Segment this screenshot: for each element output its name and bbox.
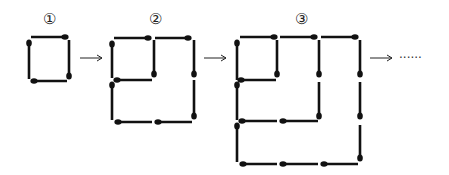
matchstick-head — [357, 112, 363, 119]
figure-label-2: ② — [149, 10, 162, 28]
matchstick-head — [109, 81, 115, 88]
figure-label-1: ① — [43, 10, 56, 28]
matchstick — [316, 40, 322, 78]
matchstick-head — [184, 35, 191, 41]
matchstick-head — [26, 39, 32, 46]
matchstick — [26, 39, 32, 79]
matchstick-head — [191, 112, 197, 119]
matchstick — [30, 78, 67, 84]
matchstick-figure-2 — [109, 35, 197, 125]
matchstick — [109, 81, 115, 120]
matchstick — [321, 34, 359, 40]
matchstick — [234, 122, 240, 162]
matchstick — [109, 40, 115, 78]
matchstick-diagram: ① ② ③ ······ — [0, 0, 449, 175]
matchstick — [357, 40, 363, 78]
matchstick-head — [234, 122, 240, 129]
matchstick-head — [30, 78, 37, 84]
arrow-right-icon — [80, 55, 102, 61]
matchstick-head — [239, 161, 246, 167]
matchstick — [237, 77, 276, 83]
matchstick-head — [144, 35, 151, 41]
matchstick — [279, 161, 318, 167]
matchstick — [114, 35, 152, 41]
matchstick — [154, 119, 192, 125]
matchstick — [274, 40, 280, 78]
matchstick — [66, 40, 72, 80]
matchstick — [151, 40, 157, 78]
matchstick — [279, 118, 318, 124]
matchstick-head — [320, 161, 327, 167]
matchstick-head — [310, 34, 317, 40]
matchstick-head — [113, 77, 120, 83]
matchstick — [320, 161, 358, 167]
matchstick-head — [114, 119, 121, 125]
matchstick — [316, 82, 322, 120]
matchstick-head — [274, 70, 280, 77]
matchstick — [155, 35, 192, 41]
continuation-ellipsis: ······ — [399, 51, 422, 65]
matchstick — [191, 80, 197, 120]
matchstick-head — [238, 118, 245, 124]
arrow-right-icon — [204, 55, 226, 61]
matchstick — [239, 161, 277, 167]
matchstick — [357, 125, 363, 162]
matchstick-head — [279, 161, 286, 167]
matchstick-head — [237, 77, 244, 83]
arrow-right-icon — [370, 55, 392, 61]
matchstick — [234, 81, 240, 120]
matchstick-head — [234, 81, 240, 88]
matchstick-head — [279, 118, 286, 124]
matchstick-head — [234, 39, 240, 46]
matchstick-head — [357, 154, 363, 161]
matchstick — [191, 40, 197, 78]
matchstick-figure-3 — [234, 34, 363, 167]
matchstick — [114, 119, 152, 125]
matchstick — [240, 34, 278, 40]
matchstick-head — [270, 34, 277, 40]
figure-labels: ① ② ③ — [43, 10, 308, 28]
matchstick — [357, 82, 363, 120]
matchstick-head — [351, 34, 358, 40]
matchstick-head — [61, 34, 68, 40]
matchstick-head — [66, 72, 72, 79]
matchstick-head — [316, 112, 322, 119]
matchstick-head — [151, 70, 157, 77]
matchstick — [280, 34, 318, 40]
matchstick — [238, 118, 277, 124]
matchstick-figure-1 — [26, 34, 72, 84]
matchstick — [31, 34, 69, 40]
matchstick — [234, 39, 240, 80]
matchstick-head — [154, 119, 161, 125]
matchstick-head — [109, 40, 115, 47]
figure-label-3: ③ — [295, 10, 308, 28]
matchstick-head — [316, 70, 322, 77]
matchstick — [113, 77, 152, 83]
matchstick-head — [191, 70, 197, 77]
matchstick-head — [357, 70, 363, 77]
